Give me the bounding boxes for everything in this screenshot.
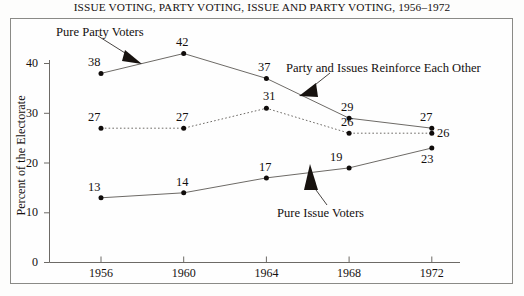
data-label-issue-1972: 23 [421, 152, 433, 167]
arrow-head-icon [304, 164, 318, 190]
data-point-marker [99, 71, 104, 76]
data-point-marker [429, 131, 434, 136]
data-point-marker [264, 175, 269, 180]
annotation-pure-party-voters: Pure Party Voters [56, 25, 144, 40]
annotation-leader-party-and-issues-reinforce [299, 73, 330, 97]
data-point-marker [347, 131, 352, 136]
data-point-marker [429, 126, 434, 131]
data-label-issue-1964: 17 [259, 160, 271, 175]
data-label-reinforce-1968: 26 [341, 115, 353, 130]
arrow-head-icon [299, 83, 318, 97]
x-tick-label-1960: 1960 [159, 266, 209, 281]
data-label-issue-1956: 13 [88, 180, 100, 195]
annotation-pure-issue-voters: Pure Issue Voters [277, 206, 364, 221]
data-point-marker [264, 76, 269, 81]
x-tick-label-1972: 1972 [407, 266, 457, 281]
y-axis-title: Percent of the Electorate [14, 71, 29, 241]
data-point-marker [429, 146, 434, 151]
y-axis-ticks [44, 64, 50, 263]
data-label-party-1972: 27 [420, 110, 432, 125]
annotation-party-and-issues-reinforce: Party and Issues Reinforce Each Other [286, 61, 481, 76]
data-label-reinforce-1956: 27 [88, 110, 100, 125]
data-label-party-1960: 42 [176, 35, 188, 50]
arrow-head-icon [122, 50, 142, 64]
data-label-reinforce-1960: 27 [176, 110, 188, 125]
data-point-marker [181, 190, 186, 195]
chart-canvas [0, 0, 524, 296]
data-label-issue-1968: 19 [330, 150, 342, 165]
x-axis-ticks [101, 257, 432, 263]
data-label-party-1968: 29 [341, 100, 353, 115]
annotation-leader-pure-issue-voters [304, 164, 327, 205]
x-tick-label-1956: 1956 [76, 266, 126, 281]
x-tick-label-1968: 1968 [324, 266, 374, 281]
data-point-marker [99, 126, 104, 131]
series-markers-party-and-issues-reinforce [99, 106, 435, 136]
data-label-party-1956: 38 [88, 55, 100, 70]
data-label-reinforce-1964: 31 [263, 89, 275, 104]
series-line-party-and-issues-reinforce [101, 108, 432, 133]
data-point-marker [99, 195, 104, 200]
data-point-marker [181, 126, 186, 131]
data-point-marker [264, 106, 269, 111]
annotation-leader-pure-party-voters [98, 36, 142, 64]
data-label-party-1964: 37 [258, 60, 270, 75]
data-label-issue-1960: 14 [176, 175, 188, 190]
y-tick-label-0: 0 [8, 255, 38, 270]
data-point-marker [347, 165, 352, 170]
x-tick-label-1964: 1964 [241, 266, 291, 281]
data-point-marker [181, 51, 186, 56]
chart-page: ISSUE VOTING, PARTY VOTING, ISSUE AND PA… [0, 0, 524, 296]
data-label-reinforce-1972: 26 [437, 126, 449, 141]
y-tick-label-40: 40 [8, 56, 38, 71]
